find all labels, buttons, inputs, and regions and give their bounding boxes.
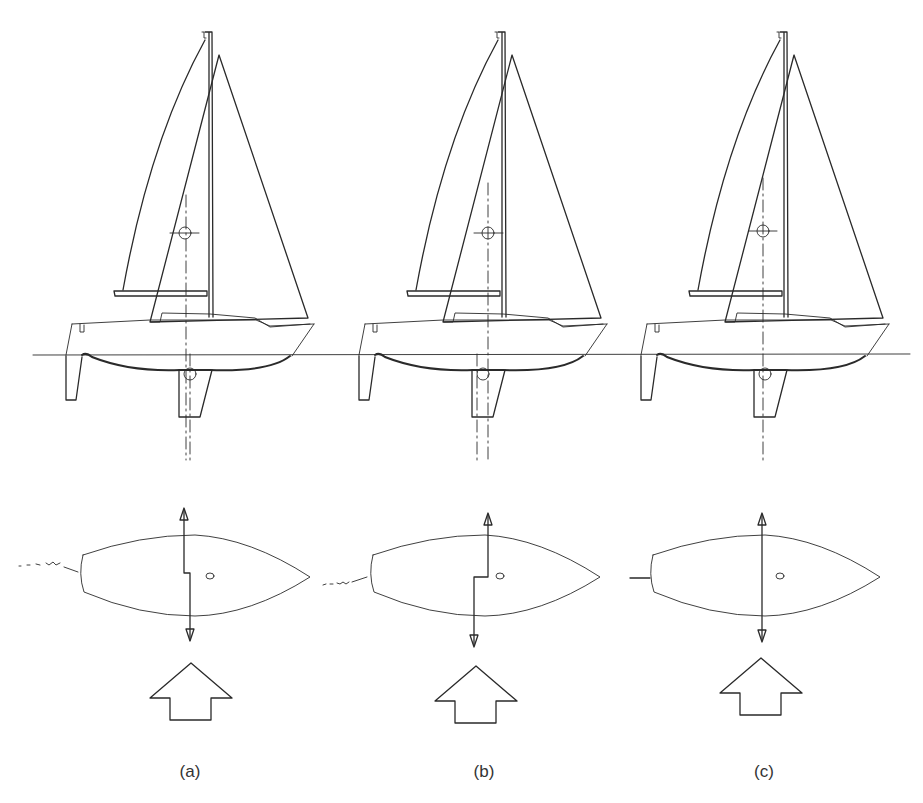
panel-c-profile [641, 32, 889, 417]
panel-c-markers [749, 178, 777, 460]
panel-c-plan-arrows [630, 513, 802, 715]
panel-b-plan [371, 535, 600, 616]
panel-b-plan-arrows [323, 513, 517, 723]
sailboat-balance-diagram [0, 0, 923, 803]
wake-rough [323, 577, 367, 585]
panel-b-label: (b) [474, 762, 495, 782]
panel-c-plan [651, 535, 880, 616]
waterline [33, 354, 910, 355]
panel-a-profile [66, 32, 314, 460]
panel-a-plan [19, 508, 310, 720]
panel-b-profile [359, 32, 607, 417]
panel-a-label: (a) [180, 762, 201, 782]
wake-rough [19, 562, 78, 572]
panel-c-label: (c) [754, 762, 774, 782]
